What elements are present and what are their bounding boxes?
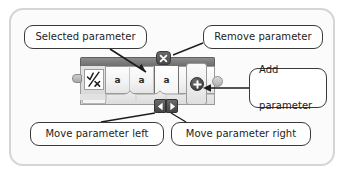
screenshot-root: a a a a Sele — [0, 0, 346, 177]
callout-add-parameter-line2: parameter — [259, 100, 312, 112]
callout-move-parameter-right-label: Move parameter right — [186, 128, 296, 140]
callout-add-parameter-line1: Add — [259, 64, 312, 76]
add-parameter-button[interactable] — [190, 77, 204, 91]
triangle-right-icon — [169, 102, 176, 111]
callout-add-parameter: Add parameter — [249, 68, 327, 108]
triangle-left-icon — [157, 102, 164, 111]
block-left-connector — [72, 74, 82, 83]
parameter-cell-3-selected[interactable]: a — [154, 66, 179, 94]
callout-move-parameter-left: Move parameter left — [30, 122, 164, 146]
plus-icon — [193, 80, 202, 89]
remove-parameter-button[interactable] — [156, 51, 171, 65]
callout-move-parameter-right: Move parameter right — [171, 122, 311, 146]
callout-move-parameter-left-label: Move parameter left — [45, 128, 148, 140]
move-parameter-right-button[interactable] — [166, 99, 178, 113]
parameter-cell-1[interactable]: a — [106, 66, 130, 94]
parameter-cell-2[interactable]: a — [130, 66, 154, 94]
block-right-connector — [212, 76, 223, 87]
close-x-icon — [159, 54, 168, 63]
callout-selected-parameter: Selected parameter — [24, 25, 147, 49]
callout-selected-parameter-label: Selected parameter — [35, 31, 135, 43]
block-skirt-shelf — [82, 98, 106, 104]
move-parameter-left-button[interactable] — [154, 99, 166, 113]
checkmark-cross-icon — [84, 69, 104, 90]
